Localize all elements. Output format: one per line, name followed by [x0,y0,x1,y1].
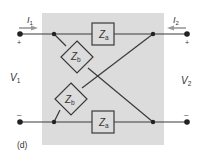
right-minus-sign: – [184,110,189,119]
figure-label: (d) [17,140,28,150]
right-top-node [151,32,155,36]
right-plus-sign: + [185,39,189,46]
right-top-terminal [184,31,190,37]
left-bottom-node [52,120,56,124]
v1-label: V1 [10,72,21,84]
left-top-terminal [17,31,23,37]
left-top-node [52,32,56,36]
i2-label: I2 [173,15,180,26]
left-bottom-terminal [17,119,23,125]
right-bottom-terminal [184,119,190,125]
right-bottom-node [151,120,155,124]
i2-arrow-icon [167,26,174,31]
v2-label: V2 [181,75,192,87]
i1-arrow-icon [31,26,38,31]
left-plus-sign: + [17,39,21,46]
lattice-network-diagram: Za Za Zb Zb I1 I2 + + – – V1 V2 (d) [0,0,203,163]
i1-label: I1 [27,15,34,26]
left-minus-sign: – [17,110,22,119]
